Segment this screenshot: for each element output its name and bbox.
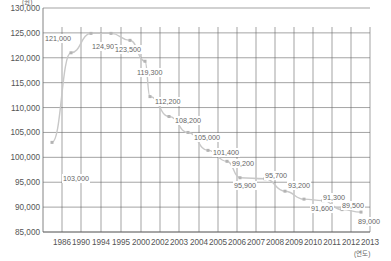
data-label: 101,400	[213, 148, 239, 157]
x-tick-label: 1986	[53, 238, 72, 247]
x-tick-label: 2010	[304, 238, 323, 247]
data-label: 103,000	[63, 174, 89, 183]
data-point-marker	[168, 115, 171, 118]
y-tick-label: 120,000	[10, 54, 40, 63]
y-tick-label: 130,000	[10, 4, 40, 13]
x-tick-label: 2006	[228, 238, 247, 247]
data-point-marker	[360, 211, 363, 214]
y-tick-label: 115,000	[11, 79, 40, 88]
y-tick-label: 105,000	[10, 128, 40, 137]
chart-canvas: 85,00090,00095,000100,000105,000110,0001…	[0, 0, 391, 261]
data-point-marker	[239, 176, 242, 179]
x-tick-label: 2004	[190, 238, 209, 247]
data-labels: 103,000121,000124,900123,500119,300112,2…	[44, 34, 381, 226]
data-label: 121,000	[45, 34, 71, 43]
x-tick-label: 2011	[323, 238, 341, 247]
x-tick-label: 2007	[247, 238, 266, 247]
x-tick-label: 1995	[112, 238, 131, 247]
x-tick-label: 2005	[209, 238, 228, 247]
y-tick-label: 95,000	[15, 178, 40, 187]
data-point-marker	[303, 198, 306, 201]
data-point-marker	[70, 51, 73, 54]
y-axis-ticks: 85,00090,00095,000100,000105,000110,0001…	[10, 4, 40, 237]
data-point-marker	[144, 60, 147, 63]
data-point-marker	[187, 131, 190, 134]
series-line	[52, 33, 361, 212]
data-point-marker	[226, 160, 229, 163]
data-label: 99,200	[232, 159, 254, 168]
data-point-marker	[90, 32, 93, 35]
data-label: 91,600	[311, 204, 333, 213]
data-label: 95,900	[234, 181, 256, 190]
data-point-marker	[51, 141, 54, 144]
data-label: 93,200	[288, 181, 310, 190]
y-tick-label: 90,000	[15, 203, 40, 212]
data-point-marker	[129, 39, 132, 42]
x-tick-label: 2009	[285, 238, 304, 247]
x-tick-label: 1990	[72, 238, 91, 247]
data-point-marker	[149, 95, 152, 98]
data-label: 95,700	[265, 171, 287, 180]
y-tick-label: 110,000	[11, 104, 40, 113]
line-chart: 85,00090,00095,000100,000105,000110,0001…	[0, 0, 391, 261]
data-label: 123,500	[115, 45, 141, 54]
data-point-marker	[284, 190, 287, 193]
data-label: 89,000	[358, 217, 380, 226]
data-point-marker	[110, 32, 113, 35]
data-label: 119,300	[137, 68, 162, 77]
x-tick-label: 2000	[132, 238, 151, 247]
data-label: 108,200	[175, 116, 201, 125]
x-tick-label: 2002	[151, 238, 170, 247]
x-axis-unit-label: (연도)	[354, 250, 370, 258]
x-tick-label: 2012	[342, 238, 361, 247]
y-tick-label: 85,000	[15, 228, 40, 237]
data-label: 112,200	[155, 97, 180, 106]
y-tick-label: 125,000	[10, 29, 40, 38]
x-tick-label: 2008	[266, 238, 285, 247]
data-label: 89,500	[342, 201, 364, 210]
data-series-line	[51, 32, 363, 214]
x-tick-label: 1994	[92, 238, 111, 247]
y-tick-label: 100,000	[10, 153, 40, 162]
x-axis-ticks: 1986199019941995200020022003200420052006…	[53, 238, 380, 247]
x-tick-label: 2013	[361, 238, 380, 247]
x-tick-label: 2003	[170, 238, 189, 247]
data-label: 105,000	[194, 133, 220, 142]
data-point-marker	[207, 149, 210, 152]
